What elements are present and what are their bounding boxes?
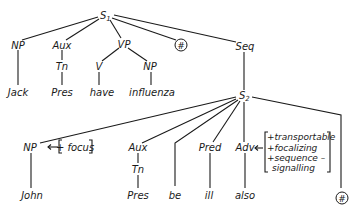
node-np: NP <box>11 40 25 51</box>
feature-transportable: +transportable <box>267 132 336 142</box>
node-tn: Tn <box>56 61 68 72</box>
leaf-john: John <box>19 190 43 201</box>
leaf-have: have <box>90 87 115 98</box>
node-adv: Adv <box>234 142 255 153</box>
leaf-ill: ill <box>205 190 214 201</box>
node-np-focus: NP <box>23 142 37 153</box>
node-vp: VP <box>118 39 132 50</box>
feature-signalling: signalling <box>272 163 315 173</box>
node-s2: S2 <box>239 90 250 103</box>
feature-focalizing: +focalizing <box>267 143 318 153</box>
node-s1: S1 <box>100 10 111 23</box>
leaf-boundary-hash: # <box>338 194 346 204</box>
leaf-pres-2: Pres <box>127 190 149 201</box>
node-seq: Seq <box>236 41 255 52</box>
syntax-tree-diagram: S1 NP Aux VP # Seq Tn V NP Jack Pres hav… <box>0 0 360 219</box>
leaf-also: also <box>235 190 255 201</box>
node-boundary-hash: # <box>177 41 185 51</box>
node-v: V <box>96 61 104 72</box>
leaf-influenza: influenza <box>129 87 175 98</box>
leaf-jack: Jack <box>6 87 30 98</box>
node-aux: Aux <box>51 40 71 51</box>
leaf-be: be <box>169 190 182 201</box>
feature-focus: + focus <box>56 142 94 153</box>
node-tn-2: Tn <box>132 164 144 175</box>
leaf-pres: Pres <box>51 87 73 98</box>
node-np-object: NP <box>143 61 157 72</box>
node-pred: Pred <box>199 142 222 153</box>
feature-sequence: +sequence – <box>267 153 326 163</box>
node-aux-2: Aux <box>127 142 147 153</box>
